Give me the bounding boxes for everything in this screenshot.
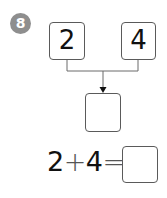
equation: 2+4= (47, 144, 125, 180)
result-answer-box[interactable] (85, 93, 121, 132)
equation-operand-2: 4 (86, 146, 103, 177)
plus-sign: + (64, 146, 86, 177)
equation-operand-1: 2 (47, 146, 64, 177)
equation-answer-box[interactable] (122, 146, 158, 183)
